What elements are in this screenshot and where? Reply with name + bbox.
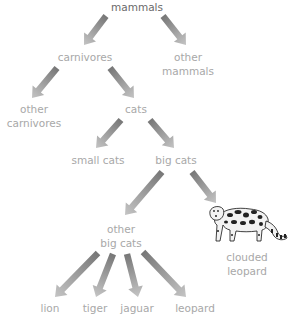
node-clouded-leopard: cloudedleopard <box>226 250 268 278</box>
arrow-mammals-to-other-mammals <box>161 14 187 45</box>
node-label-line: small cats <box>71 153 124 167</box>
arrow-big-cats-to-other-big-cats <box>125 170 164 215</box>
node-other-mammals: othermammals <box>162 50 214 78</box>
node-label-line: lion <box>41 301 60 315</box>
node-label-line: clouded <box>226 250 268 264</box>
node-other-carnivores: othercarnivores <box>7 102 62 130</box>
node-label-line: leopard <box>226 264 268 278</box>
arrow-mammals-to-carnivores <box>84 14 109 45</box>
node-label-line: carnivores <box>58 50 113 64</box>
node-label-line: carnivores <box>7 116 62 130</box>
node-label-line: cats <box>125 102 147 116</box>
arrow-carnivores-to-cats <box>108 66 135 98</box>
node-mammals: mammals <box>111 0 163 14</box>
arrow-other-big-cats-to-jaguar <box>124 253 143 297</box>
arrow-other-big-cats-to-lion <box>55 251 100 297</box>
node-lion: lion <box>41 301 60 315</box>
clouded-leopard-icon <box>206 203 288 245</box>
node-leopard: leopard <box>175 301 215 315</box>
node-label-line: big cats <box>100 236 141 250</box>
node-carnivores: carnivores <box>58 50 113 64</box>
node-label-line: mammals <box>111 0 163 14</box>
node-other-big-cats: otherbig cats <box>100 222 141 250</box>
node-label-line: tiger <box>83 301 107 315</box>
node-label-line: other <box>7 102 62 116</box>
node-jaguar: jaguar <box>120 301 153 315</box>
node-label-line: other <box>100 222 141 236</box>
node-label-line: mammals <box>162 64 214 78</box>
node-label-line: big cats <box>155 153 196 167</box>
arrow-other-big-cats-to-tiger <box>93 253 116 297</box>
arrow-cats-to-small-cats <box>96 118 123 148</box>
node-label-line: jaguar <box>120 301 153 315</box>
arrow-cats-to-big-cats <box>148 118 174 148</box>
arrow-other-big-cats-to-leopard <box>141 250 186 297</box>
node-label-line: leopard <box>175 301 215 315</box>
node-big-cats: big cats <box>155 153 196 167</box>
node-label-line: other <box>162 50 214 64</box>
node-small-cats: small cats <box>71 153 124 167</box>
arrow-carnivores-to-other-carnivores <box>32 66 60 98</box>
node-tiger: tiger <box>83 301 107 315</box>
node-cats: cats <box>125 102 147 116</box>
arrow-big-cats-to-clouded-leopard <box>190 170 217 203</box>
